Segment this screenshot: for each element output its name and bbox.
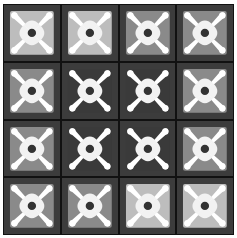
tile-r0-c0[interactable] [4, 5, 60, 61]
tile-motif-icon [120, 63, 176, 119]
tile-r3-c2[interactable] [120, 178, 176, 234]
tile-motif-icon [4, 178, 60, 234]
tile-motif-icon [62, 121, 118, 177]
tile-r2-c2[interactable] [120, 121, 176, 177]
tile-r3-c1[interactable] [62, 178, 118, 234]
tile-r1-c0[interactable] [4, 63, 60, 119]
tile-motif-icon [4, 63, 60, 119]
tile-motif-icon [120, 178, 176, 234]
tile-r0-c2[interactable] [120, 5, 176, 61]
tile-motif-icon [62, 63, 118, 119]
tile-motif-icon [4, 5, 60, 61]
tile-motif-icon [62, 178, 118, 234]
tile-motif-icon [120, 121, 176, 177]
tile-motif-icon [177, 5, 233, 61]
tile-grid [3, 4, 234, 235]
tile-r0-c1[interactable] [62, 5, 118, 61]
tile-r2-c3[interactable] [177, 121, 233, 177]
tile-motif-icon [62, 5, 118, 61]
tile-r3-c3[interactable] [177, 178, 233, 234]
tile-r1-c3[interactable] [177, 63, 233, 119]
tile-r3-c0[interactable] [4, 178, 60, 234]
tile-r2-c0[interactable] [4, 121, 60, 177]
tile-r1-c1[interactable] [62, 63, 118, 119]
tile-motif-icon [4, 121, 60, 177]
tile-r0-c3[interactable] [177, 5, 233, 61]
tile-r1-c2[interactable] [120, 63, 176, 119]
tile-motif-icon [177, 178, 233, 234]
tile-motif-icon [120, 5, 176, 61]
tile-r2-c1[interactable] [62, 121, 118, 177]
tile-motif-icon [177, 63, 233, 119]
tile-motif-icon [177, 121, 233, 177]
